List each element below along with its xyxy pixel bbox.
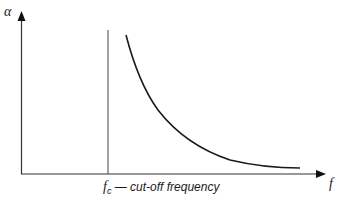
cutoff-text: — cut-off frequency: [115, 180, 220, 194]
x-axis-label: f: [329, 176, 333, 192]
attenuation-plot: [0, 0, 341, 202]
attenuation-curve: [126, 35, 300, 168]
y-axis-arrow-icon: [18, 11, 26, 21]
y-axis-label: α: [4, 4, 11, 20]
cutoff-label: fc — cut-off frequency: [103, 179, 219, 196]
x-axis-arrow-icon: [316, 170, 326, 178]
cutoff-subscript: c: [107, 186, 112, 196]
